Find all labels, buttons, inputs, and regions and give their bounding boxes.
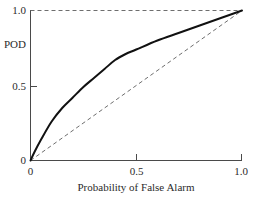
tick-labels: 1.0 0.5 0 0 0.5 1.0 [12, 4, 248, 177]
y-tick-label-max: 1.0 [12, 4, 26, 16]
x-tick-label-mid: 0.5 [130, 165, 144, 177]
no-skill-diagonal-dashed-line [31, 11, 243, 161]
x-tick-label-max: 1.0 [234, 165, 248, 177]
reference-lines [31, 11, 243, 161]
y-tick-label-zero: 0 [21, 154, 27, 166]
axis-tick-marks [31, 87, 242, 161]
roc-chart-figure: 1.0 0.5 0 0 0.5 1.0 POD Probability of F… [0, 0, 253, 199]
x-axis-title: Probability of False Alarm [77, 181, 194, 193]
x-tick-label-zero: 0 [28, 165, 34, 177]
y-tick-label-mid: 0.5 [12, 80, 26, 92]
y-axis-title: POD [4, 38, 26, 50]
roc-chart-canvas: 1.0 0.5 0 0 0.5 1.0 POD Probability of F… [0, 0, 253, 199]
